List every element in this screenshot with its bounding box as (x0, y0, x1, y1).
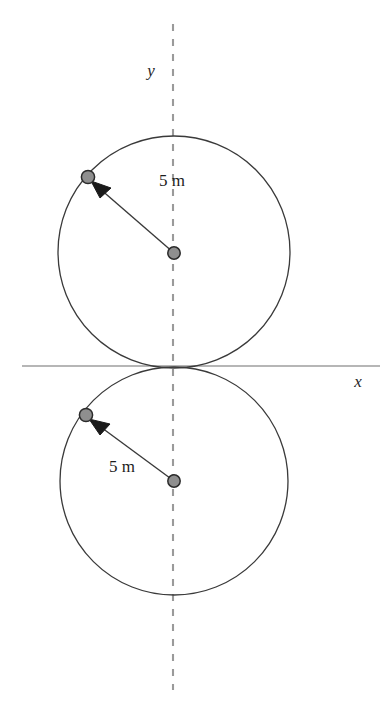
upper-center-dot (168, 247, 180, 259)
upper-radius-line (99, 188, 174, 253)
x-axis-label: x (353, 372, 362, 391)
y-axis-label: y (145, 61, 155, 80)
lower-arrowhead-icon (89, 419, 110, 435)
physics-diagram-figure: y x 5 m 5 m (0, 0, 392, 718)
lower-center-dot (168, 475, 180, 487)
diagram-canvas: y x 5 m 5 m (0, 0, 392, 718)
lower-radius-label: 5 m (109, 457, 135, 476)
upper-radius-label: 5 m (159, 171, 185, 190)
lower-particle-dot (79, 408, 92, 421)
upper-radius-arrow (91, 181, 174, 253)
upper-particle-dot (81, 170, 94, 183)
